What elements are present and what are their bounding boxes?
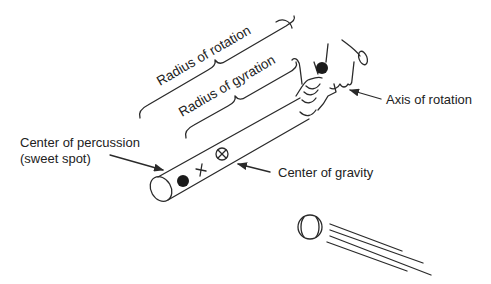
center-of-percussion-label: Center of percussion bbox=[20, 135, 140, 150]
motion-lines bbox=[327, 224, 431, 275]
center-of-gravity-label: Center of gravity bbox=[278, 165, 374, 180]
gyration-plus-marker bbox=[196, 164, 206, 176]
axis-point-marker bbox=[316, 62, 328, 74]
sweet-spot-label: (sweet spot) bbox=[20, 151, 91, 166]
baseball bbox=[298, 215, 322, 239]
bat bbox=[146, 98, 309, 205]
axis-of-rotation-arrow bbox=[350, 90, 381, 99]
center-of-percussion-arrow bbox=[110, 155, 163, 170]
center-of-gravity-marker bbox=[216, 148, 228, 160]
hands bbox=[276, 20, 369, 116]
sweet-spot-marker bbox=[177, 175, 189, 187]
axis-of-rotation-label: Axis of rotation bbox=[386, 92, 472, 107]
center-of-gravity-arrow bbox=[238, 164, 270, 172]
bat-physics-diagram: Radius of rotation Radius of gyration Ce… bbox=[0, 0, 491, 284]
